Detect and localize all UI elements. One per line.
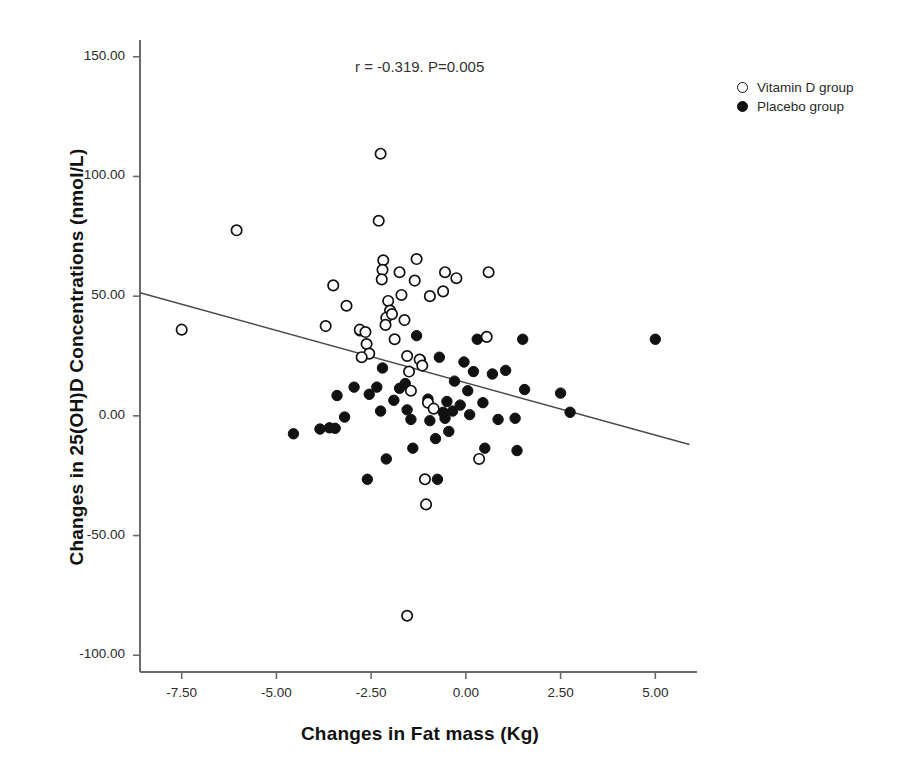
y-tick-label: 0.00 — [45, 407, 125, 422]
data-point — [402, 405, 412, 415]
data-point — [341, 301, 351, 311]
data-point — [510, 413, 520, 423]
data-point — [330, 423, 340, 433]
plot-canvas — [0, 0, 913, 784]
legend-label-vitamin-d: Vitamin D group — [757, 80, 854, 95]
data-point — [411, 330, 421, 340]
data-point — [444, 426, 454, 436]
data-point — [493, 414, 503, 424]
data-point — [349, 382, 359, 392]
data-point — [425, 291, 435, 301]
data-point — [383, 296, 393, 306]
data-point — [315, 424, 325, 434]
data-point — [428, 403, 438, 413]
data-point — [411, 254, 421, 264]
data-point — [500, 365, 510, 375]
data-point — [449, 376, 459, 386]
data-point — [176, 324, 186, 334]
data-point — [487, 369, 497, 379]
data-point — [375, 406, 385, 416]
data-point — [332, 390, 342, 400]
data-point — [430, 433, 440, 443]
x-tick-label: 5.00 — [615, 685, 695, 700]
x-tick-label: 2.50 — [521, 685, 601, 700]
y-tick-label: 150.00 — [45, 48, 125, 63]
data-point — [381, 454, 391, 464]
data-point — [421, 499, 431, 509]
scatter-plot-figure: Changes in 25(OH)D Concentrations (nmol/… — [0, 0, 913, 784]
legend: Vitamin D group Placebo group — [737, 78, 854, 116]
y-tick-label: -50.00 — [45, 527, 125, 542]
y-tick-label: -100.00 — [45, 646, 125, 661]
x-tick-label: 0.00 — [426, 685, 506, 700]
data-point — [512, 445, 522, 455]
data-point — [377, 363, 387, 373]
filled-circle-icon — [737, 101, 748, 112]
y-axis-title: Changes in 25(OH)D Concentrations (nmol/… — [66, 77, 88, 637]
data-point — [374, 216, 384, 226]
data-point — [408, 443, 418, 453]
data-point — [231, 225, 241, 235]
data-point — [455, 400, 465, 410]
data-point — [434, 352, 444, 362]
data-point — [474, 454, 484, 464]
data-point — [565, 407, 575, 417]
data-point — [482, 332, 492, 342]
data-point — [402, 611, 412, 621]
data-point — [438, 286, 448, 296]
data-point — [518, 334, 528, 344]
data-point — [480, 443, 490, 453]
data-point — [377, 274, 387, 284]
data-point — [555, 388, 565, 398]
data-point — [468, 366, 478, 376]
data-point — [463, 386, 473, 396]
data-point — [375, 149, 385, 159]
data-points-vitamin-d — [176, 149, 493, 621]
data-point — [406, 386, 416, 396]
data-point — [372, 382, 382, 392]
data-point — [459, 357, 469, 367]
y-tick-label: 100.00 — [45, 167, 125, 182]
data-point — [394, 267, 404, 277]
data-point — [650, 334, 660, 344]
data-point — [406, 414, 416, 424]
data-point — [442, 396, 452, 406]
data-point — [328, 280, 338, 290]
data-point — [288, 429, 298, 439]
y-tick-label: 50.00 — [45, 287, 125, 302]
data-point — [360, 327, 370, 337]
data-point — [402, 351, 412, 361]
x-tick-label: -2.50 — [331, 685, 411, 700]
data-point — [356, 352, 366, 362]
data-point — [440, 267, 450, 277]
x-tick-label: -5.00 — [236, 685, 316, 700]
data-point — [380, 320, 390, 330]
data-point — [451, 273, 461, 283]
data-point — [362, 474, 372, 484]
data-point — [478, 397, 488, 407]
data-point — [320, 321, 330, 331]
data-point — [389, 334, 399, 344]
data-point — [389, 395, 399, 405]
x-tick-label: -7.50 — [142, 685, 222, 700]
correlation-annotation: r = -0.319. P=0.005 — [355, 58, 484, 75]
legend-item-placebo: Placebo group — [737, 97, 854, 116]
data-point — [425, 415, 435, 425]
data-point — [339, 412, 349, 422]
axis-ticks — [133, 57, 655, 679]
data-point — [420, 474, 430, 484]
open-circle-icon — [737, 82, 748, 93]
data-point — [410, 275, 420, 285]
data-point — [432, 474, 442, 484]
legend-label-placebo: Placebo group — [757, 99, 844, 114]
x-axis-title: Changes in Fat mass (Kg) — [140, 723, 700, 745]
data-point — [417, 360, 427, 370]
data-point — [464, 409, 474, 419]
data-point — [399, 315, 409, 325]
data-point — [519, 384, 529, 394]
data-point — [483, 267, 493, 277]
data-point — [404, 366, 414, 376]
data-point — [387, 309, 397, 319]
data-point — [396, 290, 406, 300]
legend-item-vitamin-d: Vitamin D group — [737, 78, 854, 97]
